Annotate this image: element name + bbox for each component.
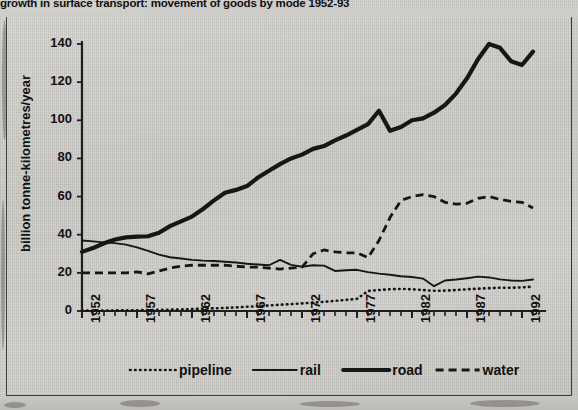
scan-artifact: [300, 401, 360, 407]
x-tick-label: 1972: [308, 294, 323, 323]
x-tick-label: 1982: [418, 294, 433, 323]
y-tick-label: 80: [32, 149, 72, 164]
series-line-road: [82, 44, 533, 252]
y-tick-label: 0: [32, 302, 72, 317]
scan-artifact: [120, 400, 160, 407]
y-tick-label: 40: [32, 226, 72, 241]
x-tick-label: 1987: [473, 294, 488, 323]
series-line-rail: [82, 240, 533, 286]
axis-lines: [82, 42, 545, 311]
y-tick-label: 20: [32, 264, 72, 279]
x-tick-label: 1957: [143, 294, 158, 323]
legend-label-pipeline: pipeline: [179, 362, 232, 378]
legend: pipelinerailroadwater: [120, 356, 470, 382]
scan-artifact: [470, 400, 540, 407]
legend-label-rail: rail: [300, 362, 321, 378]
y-tick-label: 100: [32, 111, 72, 126]
legend-label-road: road: [392, 362, 422, 378]
scan-artifact: [1, 200, 5, 350]
scan-artifact: [2, 20, 7, 140]
x-tick-label: 1992: [528, 294, 543, 323]
chart-plot: [0, 0, 578, 410]
chart-title: growth in surface transport: movement of…: [0, 0, 578, 11]
x-tick-label: 1967: [253, 294, 268, 323]
x-tick-label: 1952: [88, 294, 103, 323]
y-axis-title: billion tonne-kilometres/year: [18, 75, 33, 252]
x-tick-label: 1977: [363, 294, 378, 323]
y-tick-label: 60: [32, 188, 72, 203]
y-tick-label: 120: [32, 73, 72, 88]
legend-label-water: water: [483, 362, 520, 378]
scan-artifact: [4, 402, 26, 408]
y-tick-label: 140: [32, 35, 72, 50]
data-series-group: [82, 44, 533, 311]
x-tick-label: 1962: [198, 294, 213, 323]
